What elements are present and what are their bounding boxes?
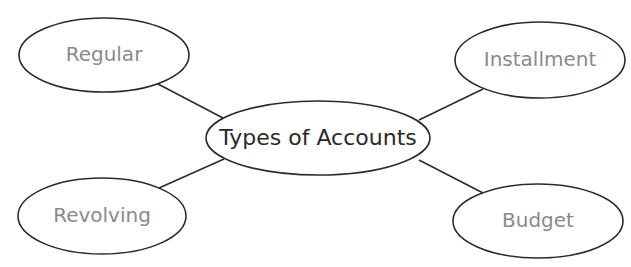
node-installment: Installment <box>455 22 625 98</box>
connector-regular <box>158 84 223 118</box>
node-regular: Regular <box>19 18 189 92</box>
connector-revolving <box>159 159 224 188</box>
node-label: Revolving <box>53 203 151 227</box>
node-label: Installment <box>484 47 597 71</box>
connector-budget <box>419 160 483 193</box>
center-label: Types of Accounts <box>218 125 416 150</box>
node-budget: Budget <box>453 184 623 258</box>
concept-map: RegularInstallmentRevolvingBudget Types … <box>0 0 631 267</box>
node-revolving: Revolving <box>18 178 186 254</box>
connector-installment <box>419 89 483 120</box>
node-label: Regular <box>66 42 143 66</box>
center-node: Types of Accounts <box>206 101 430 175</box>
node-label: Budget <box>502 208 574 232</box>
